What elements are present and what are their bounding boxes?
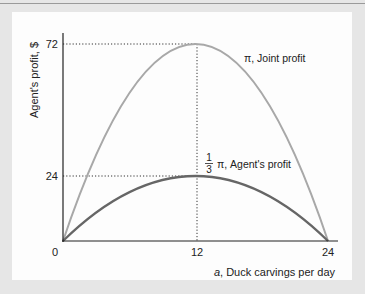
agent-frac-den: 3 — [206, 164, 212, 175]
joint-profit-label: π, Joint profit — [244, 52, 306, 64]
agent-frac-num: 1 — [206, 152, 212, 163]
x-tick-0: 0 — [52, 246, 58, 258]
chart-svg: 72 24 0 12 24 Agent's profit, $ a, Duck … — [0, 0, 365, 294]
x-axis-title: a, Duck carvings per day — [214, 266, 336, 278]
y-axis-title: Agent's profit, $ — [28, 42, 40, 118]
y-tick-24: 24 — [46, 170, 58, 182]
y-tick-72: 72 — [46, 38, 58, 50]
agent-profit-label: π, Agent's profit — [217, 158, 291, 170]
x-tick-12: 12 — [191, 246, 203, 258]
joint-profit-curve — [63, 44, 328, 241]
agent-profit-curve — [63, 176, 328, 241]
x-tick-24: 24 — [322, 246, 334, 258]
